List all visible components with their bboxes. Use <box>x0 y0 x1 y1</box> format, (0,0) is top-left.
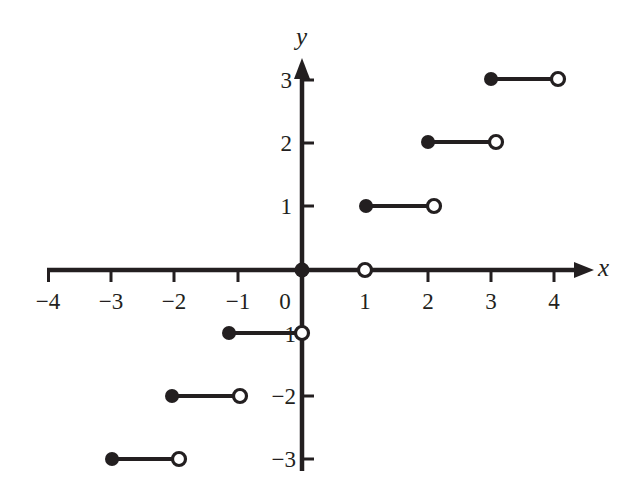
step-segment-neg2 <box>165 389 247 403</box>
step-segment-0 <box>295 263 372 278</box>
open-endpoint-circle <box>428 200 441 213</box>
closed-endpoint-dot <box>165 389 179 403</box>
x-tick-label-neg1: −1 <box>226 290 250 313</box>
open-endpoint-circle <box>234 390 247 403</box>
closed-endpoint-dot <box>359 199 373 213</box>
open-endpoint-circle <box>359 264 372 277</box>
step-segment-1 <box>359 199 441 213</box>
step-segment-2 <box>421 135 503 149</box>
open-endpoint-circle <box>173 453 186 466</box>
y-tick-label-neg2: −2 <box>272 385 296 408</box>
closed-endpoint-dot <box>222 326 236 340</box>
x-tick-label-neg2: −2 <box>162 290 186 313</box>
y-tick-label-1: 1 <box>281 195 293 218</box>
step-segment-neg3 <box>105 452 186 466</box>
x-tick-label-2: 2 <box>422 290 434 313</box>
x-tick-label-4: 4 <box>548 290 560 313</box>
y-tick-label-neg1: −1 <box>272 323 296 346</box>
plot-area <box>0 0 626 497</box>
open-endpoint-circle <box>296 327 309 340</box>
x-tick-label-3: 3 <box>485 290 497 313</box>
y-tick-label-neg3: −3 <box>272 448 296 471</box>
x-tick-label-1: 1 <box>359 290 371 313</box>
open-endpoint-circle <box>490 136 503 149</box>
closed-endpoint-dot <box>421 135 435 149</box>
x-tick-label-neg4: −4 <box>36 290 60 313</box>
y-tick-label-3: 3 <box>281 69 293 92</box>
y-axis-arrow-icon <box>294 58 310 79</box>
step-segment-3 <box>484 72 565 86</box>
closed-endpoint-dot <box>295 263 310 278</box>
x-axis-arrow-icon <box>574 262 594 278</box>
open-endpoint-circle <box>552 73 565 86</box>
x-axis-label: x <box>598 255 609 280</box>
step-function-chart: −4 −3 −2 −1 0 1 2 3 4 3 2 1 −1 −2 −3 y x <box>0 0 626 497</box>
x-tick-label-neg3: −3 <box>99 290 123 313</box>
y-axis-label: y <box>296 24 307 49</box>
closed-endpoint-dot <box>484 72 498 86</box>
x-tick-label-0: 0 <box>279 290 291 313</box>
y-tick-label-2: 2 <box>281 132 293 155</box>
closed-endpoint-dot <box>105 452 119 466</box>
